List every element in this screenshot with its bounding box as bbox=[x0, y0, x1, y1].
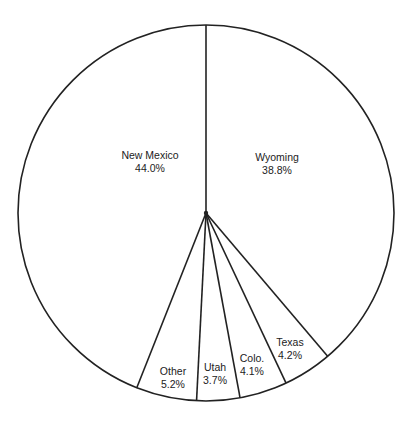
label-wyoming-name: Wyoming bbox=[255, 151, 299, 164]
label-texas-pct: 4.2% bbox=[276, 349, 303, 362]
pie-center bbox=[204, 211, 208, 215]
label-texas: Texas 4.2% bbox=[276, 336, 303, 362]
label-wyoming: Wyoming 38.8% bbox=[255, 151, 299, 177]
label-new-mexico-pct: 44.0% bbox=[121, 162, 178, 175]
label-other-pct: 5.2% bbox=[160, 378, 186, 391]
label-wyoming-pct: 38.8% bbox=[255, 164, 299, 177]
label-colo-name: Colo. bbox=[240, 352, 265, 365]
label-utah-pct: 3.7% bbox=[203, 374, 227, 387]
label-new-mexico: New Mexico 44.0% bbox=[121, 149, 178, 175]
label-new-mexico-name: New Mexico bbox=[121, 149, 178, 162]
label-other-name: Other bbox=[160, 365, 186, 378]
label-other: Other 5.2% bbox=[160, 365, 186, 391]
label-texas-name: Texas bbox=[276, 336, 303, 349]
label-utah: Utah 3.7% bbox=[203, 361, 227, 387]
label-colo-pct: 4.1% bbox=[240, 365, 265, 378]
label-utah-name: Utah bbox=[203, 361, 227, 374]
label-colo: Colo. 4.1% bbox=[240, 352, 265, 378]
pie-chart bbox=[0, 0, 408, 422]
